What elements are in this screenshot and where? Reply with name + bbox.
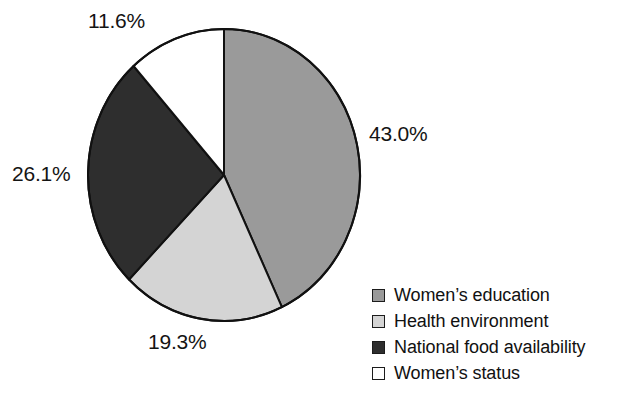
legend-swatch-icon xyxy=(372,341,385,354)
legend-item-women-status[interactable]: Women’s status xyxy=(372,362,586,384)
pie-value-label-national-food: 26.1% xyxy=(12,163,71,184)
pie-value-label-health-environment: 19.3% xyxy=(148,331,207,352)
legend-item-label: Women’s education xyxy=(394,286,550,304)
legend-swatch-icon xyxy=(372,315,385,328)
legend-swatch-icon xyxy=(372,289,385,302)
legend-item-label: Health environment xyxy=(394,312,548,330)
legend-item-women-education[interactable]: Women’s education xyxy=(372,284,586,306)
pie-chart-figure: 11.6% 43.0% 26.1% 19.3% Women’s educatio… xyxy=(0,0,643,416)
pie-value-label-women-status: 11.6% xyxy=(88,10,145,31)
legend-item-national-food-availability[interactable]: National food availability xyxy=(372,336,586,358)
legend-item-health-environment[interactable]: Health environment xyxy=(372,310,586,332)
legend-swatch-icon xyxy=(372,367,385,380)
chart-legend: Women’s education Health environment Nat… xyxy=(372,284,586,384)
pie-value-label-women-education: 43.0% xyxy=(369,123,428,144)
legend-item-label: National food availability xyxy=(394,338,586,356)
pie-slices xyxy=(88,29,360,321)
legend-item-label: Women’s status xyxy=(394,364,520,382)
